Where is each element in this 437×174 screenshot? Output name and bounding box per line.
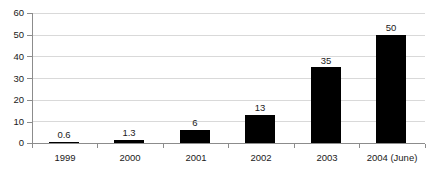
x-axis-tick-mark	[97, 144, 98, 148]
gridline	[32, 56, 425, 57]
x-axis-tick-mark	[163, 144, 164, 148]
y-axis-tick-label: 20	[2, 95, 24, 105]
gridline	[32, 121, 425, 122]
y-axis-tick-label: 40	[2, 52, 24, 62]
bar-value-label-1999: 0.6	[34, 129, 94, 140]
bar-value-label-2002: 13	[230, 102, 290, 113]
bar-value-label-2003: 35	[296, 55, 356, 66]
x-axis-tick-mark	[294, 144, 295, 148]
x-axis-tick-mark	[359, 144, 360, 148]
gridline	[32, 13, 425, 14]
y-axis-tick-label: 10	[2, 117, 24, 127]
gridline	[32, 100, 425, 101]
bar-2001	[180, 130, 210, 143]
y-axis-tick-label: 0	[2, 138, 24, 148]
x-axis-label-1999: 1999	[34, 152, 96, 163]
x-axis-tick-mark	[228, 144, 229, 148]
bar-value-label-2004: 50	[361, 22, 421, 33]
gridline	[32, 78, 425, 79]
bar-value-label-2000: 1.3	[99, 127, 159, 138]
bar-chart: 60 50 40 30 20 10 0 0.6 1.3 6 13 35	[0, 0, 437, 174]
y-axis-tick-label: 60	[2, 8, 24, 18]
bar-2002	[245, 115, 275, 143]
x-axis-label-2000: 2000	[99, 152, 161, 163]
x-axis-label-2002: 2002	[230, 152, 292, 163]
y-axis-tick-label: 50	[2, 30, 24, 40]
y-axis-tick-label: 30	[2, 74, 24, 84]
y-axis-line	[32, 13, 33, 144]
x-axis-label-2004-june: 2004 (June)	[359, 152, 425, 163]
gridline	[32, 35, 425, 36]
bar-2004	[376, 35, 406, 143]
x-axis-tick-mark	[32, 144, 33, 148]
x-axis-label-2001: 2001	[165, 152, 227, 163]
x-axis-tick-mark	[425, 144, 426, 148]
bar-2003	[311, 67, 341, 143]
bar-value-label-2001: 6	[165, 117, 225, 128]
x-axis-label-2003: 2003	[296, 152, 358, 163]
